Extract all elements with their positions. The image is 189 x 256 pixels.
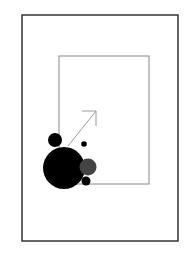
circle-cluster bbox=[43, 133, 97, 189]
gray-circle bbox=[80, 159, 97, 176]
outer-frame bbox=[22, 15, 178, 241]
small-top-circle bbox=[48, 133, 62, 147]
small-bottom-circle bbox=[82, 177, 91, 186]
diagram-canvas bbox=[0, 0, 189, 256]
tiny-dot-circle bbox=[81, 141, 87, 147]
large-black-circle bbox=[43, 147, 85, 189]
arrow-icon bbox=[68, 111, 96, 146]
